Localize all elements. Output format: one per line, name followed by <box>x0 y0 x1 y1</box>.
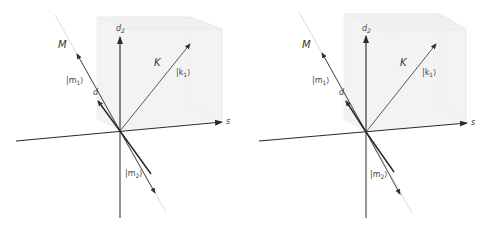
label-d2: d2 <box>362 25 371 34</box>
label-M: M <box>58 40 67 50</box>
label-ket-m1: |m1⟩ <box>66 77 83 86</box>
label-ket-m2: |m2⟩ <box>370 171 387 180</box>
stereo-panel-right: M d2 K |k1⟩ |m1⟩ d s |m2⟩ <box>242 0 484 227</box>
label-ket-k1: |k1⟩ <box>422 69 436 78</box>
vector-m2 <box>120 131 155 193</box>
stereo-panel-left: M d2 K |k1⟩ |m1⟩ d s |m2⟩ <box>0 0 242 227</box>
label-s: s <box>471 119 475 127</box>
label-K: K <box>154 58 161 68</box>
vector-d-neg <box>366 132 394 172</box>
vector-d-neg <box>120 131 151 174</box>
label-ket-m2: |m2⟩ <box>125 170 142 179</box>
label-ket-m1: |m1⟩ <box>312 77 329 86</box>
label-d2: d2 <box>116 25 125 34</box>
label-d: d <box>93 89 98 97</box>
label-M: M <box>302 40 311 50</box>
label-K: K <box>400 58 407 68</box>
label-s: s <box>226 118 230 126</box>
vector-diagram-right <box>242 0 484 227</box>
label-d: d <box>339 89 344 97</box>
label-ket-k1: |k1⟩ <box>176 69 190 78</box>
vector-m2 <box>366 132 400 194</box>
vector-diagram-left <box>0 0 242 227</box>
cube <box>97 17 222 131</box>
